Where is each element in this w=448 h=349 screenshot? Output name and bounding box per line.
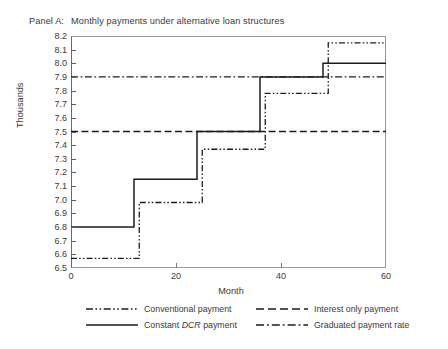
y-axis-tick-label: 8.2 <box>37 31 67 41</box>
y-axis-tick-mark <box>71 200 76 201</box>
legend-line-solid-icon <box>86 320 138 330</box>
y-axis-tick-mark <box>71 63 76 64</box>
y-axis-tick-label: 7.7 <box>37 99 67 109</box>
legend-item-graduated-payment-rate: Graduated payment rate <box>256 319 409 331</box>
y-axis-tick-mark <box>71 186 76 187</box>
y-axis-tick-label: 7.2 <box>37 167 67 177</box>
legend-item-constant-dcr-payment: Constant DCR payment <box>86 319 237 331</box>
y-axis-tick-label: 7.4 <box>37 140 67 150</box>
y-axis-tick-mark <box>71 254 76 255</box>
legend-line-dashed-icon <box>256 304 308 314</box>
y-axis-tick-label: 7.5 <box>37 127 67 137</box>
panel-title-text: Monthly payments under alternative loan … <box>71 16 284 26</box>
x-axis-title-text: Month <box>218 286 244 296</box>
y-axis-tick-label: 7.6 <box>37 113 67 123</box>
y-axis-tick-mark <box>71 172 76 173</box>
y-axis-tick-label: 7.9 <box>37 72 67 82</box>
y-axis-tick-label: 7.3 <box>37 154 67 164</box>
plot-lines <box>71 36 386 268</box>
y-axis-tick-mark <box>71 132 76 133</box>
series-line-conventional-payment <box>71 43 386 259</box>
y-axis-tick-label: 8.1 <box>37 45 67 55</box>
chart-legend: Conventional payment Constant DCR paymen… <box>86 303 386 337</box>
y-axis-tick-label: 7.0 <box>37 195 67 205</box>
y-axis-tick-label: 6.5 <box>37 263 67 273</box>
x-axis-tick-label: 20 <box>171 271 181 281</box>
y-axis-tick-label: 7.1 <box>37 181 67 191</box>
page-title: Panel A:Monthly payments under alternati… <box>29 16 284 26</box>
y-axis-tick-mark <box>71 213 76 214</box>
x-axis-tick-label: 0 <box>68 271 73 281</box>
x-axis-tick-mark <box>176 263 177 268</box>
y-axis-tick-mark <box>71 241 76 242</box>
y-axis-tick-mark <box>71 104 76 105</box>
x-axis-title: Month <box>0 286 448 296</box>
legend-item-conventional-payment: Conventional payment <box>86 303 232 315</box>
legend-item-interest-only-payment: Interest only payment <box>256 303 398 315</box>
y-axis-tick-mark <box>71 50 76 51</box>
legend-label: Graduated payment rate <box>314 320 409 330</box>
x-axis-tick-label: 40 <box>276 271 286 281</box>
y-axis-tick-label: 6.6 <box>37 249 67 259</box>
y-axis-tick-mark <box>71 118 76 119</box>
y-axis-tick-label: 8.0 <box>37 58 67 68</box>
legend-line-dash-dot-icon <box>256 320 308 330</box>
y-axis-tick-mark <box>71 145 76 146</box>
y-axis-tick-label: 6.7 <box>37 236 67 246</box>
x-axis-tick-label: 60 <box>381 271 391 281</box>
y-axis-tick-labels: 6.56.66.76.86.97.07.17.27.37.47.57.67.77… <box>34 0 67 349</box>
y-axis-tick-mark <box>71 77 76 78</box>
y-axis-title: Thousands <box>15 83 25 128</box>
series-line-constant-dcr-payment <box>71 63 386 227</box>
legend-label: Interest only payment <box>314 304 398 314</box>
y-axis-tick-mark <box>71 91 76 92</box>
y-axis-tick-mark <box>71 227 76 228</box>
chart-figure: Panel A:Monthly payments under alternati… <box>0 0 448 349</box>
y-axis-tick-mark <box>71 159 76 160</box>
legend-label: Constant DCR payment <box>144 320 237 330</box>
legend-label: Conventional payment <box>144 304 232 314</box>
y-axis-tick-label: 7.8 <box>37 86 67 96</box>
legend-line-dash-dot-dot-icon <box>86 304 138 314</box>
y-axis-tick-label: 6.8 <box>37 222 67 232</box>
y-axis-tick-label: 6.9 <box>37 208 67 218</box>
x-axis-tick-mark <box>281 263 282 268</box>
